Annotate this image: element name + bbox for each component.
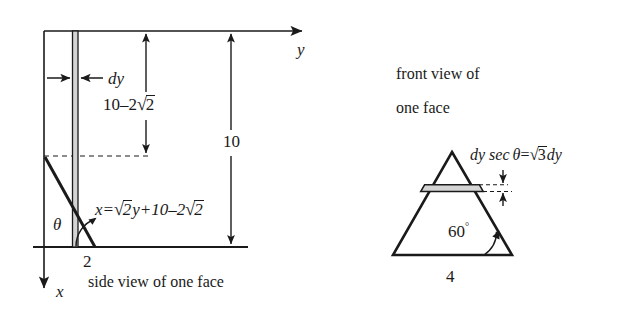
angle-60-label: 60° [448, 222, 469, 240]
dy-strip-label: dy [108, 70, 124, 87]
sqrt-glyph-eq2: √2 [185, 200, 203, 219]
front-view-base-label: 4 [446, 268, 455, 285]
side-view-base-label: 2 [83, 253, 92, 270]
y-axis-label: y [297, 41, 305, 58]
sqrt-glyph-upper: √2 [137, 95, 155, 114]
equation-radicand-1: 2 [123, 200, 133, 219]
dimension-upper-prefix: 10–2 [103, 95, 137, 114]
sqrt-glyph-strip: √3 [529, 146, 546, 164]
dimension-upper-radicand: 2 [146, 95, 156, 114]
sqrt-glyph-eq1: √2 [114, 200, 132, 219]
strip-label-suffix: dy [547, 146, 562, 163]
strip-label-equals: = [520, 146, 529, 163]
figure-container: y x dy 10–2√2 10 θ 2 x=√2y+10–2√2 side v… [0, 0, 621, 309]
angle-60-value: 60 [448, 222, 465, 241]
equation-radicand-2: 2 [194, 200, 204, 219]
strip-label-sec: sec [489, 146, 509, 163]
dimension-label-total: 10 [223, 133, 240, 150]
line-equation-label: x=√2y+10–2√2 [95, 200, 204, 219]
x-axis-label: x [56, 283, 64, 300]
theta-angle-label: θ [53, 216, 61, 233]
strip-thickness-label: dysecθ=√3dy [470, 146, 562, 164]
front-view-strip-shape [421, 185, 484, 192]
side-view-caption: side view of one face [88, 274, 224, 290]
equation-mid: y+10–2 [132, 200, 185, 219]
dimension-label-upper: 10–2√2 [103, 95, 155, 114]
front-view-caption-line1: front view of [396, 66, 480, 82]
equation-lhs: x= [95, 200, 114, 219]
strip-label-prefix: dy [470, 146, 485, 163]
front-view-caption-line2: one face [396, 100, 450, 116]
left-diagram-group [33, 31, 302, 288]
degree-symbol: ° [465, 221, 469, 232]
strip-label-radicand: 3 [538, 146, 547, 164]
